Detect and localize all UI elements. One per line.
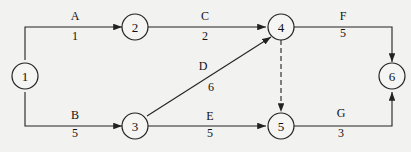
node-1: 1	[12, 63, 38, 89]
node-3: 3	[122, 113, 148, 139]
activity-b-duration: 5	[72, 126, 78, 140]
node-4: 4	[268, 14, 294, 40]
activity-f-label: F	[340, 9, 347, 23]
activity-c-duration: 2	[202, 29, 208, 43]
activity-g-label: G	[337, 106, 346, 120]
activity-d-duration: 6	[208, 80, 214, 94]
activity-f-duration: 5	[340, 26, 346, 40]
node-2: 2	[122, 14, 148, 40]
activity-d-arrow	[147, 37, 271, 116]
node-5: 5	[268, 113, 294, 139]
activity-g-duration: 3	[338, 126, 344, 140]
node-6: 6	[379, 63, 405, 89]
network-diagram: A 1 B 5 C 2 D 6 E 5 F 5 G 3 1 2 3 4 5 6	[0, 0, 411, 152]
activity-d-label: D	[199, 59, 208, 73]
svg-text:2: 2	[132, 20, 139, 35]
activity-c-label: C	[201, 9, 209, 23]
activity-e-label: E	[206, 109, 213, 123]
svg-text:5: 5	[278, 119, 285, 134]
activity-b-label: B	[71, 108, 79, 122]
activity-a-label: A	[71, 9, 80, 23]
svg-text:4: 4	[278, 20, 285, 35]
activity-a-duration: 1	[72, 29, 78, 43]
svg-text:3: 3	[132, 119, 139, 134]
activity-e-duration: 5	[207, 126, 213, 140]
svg-text:1: 1	[22, 69, 29, 84]
svg-text:6: 6	[389, 69, 396, 84]
